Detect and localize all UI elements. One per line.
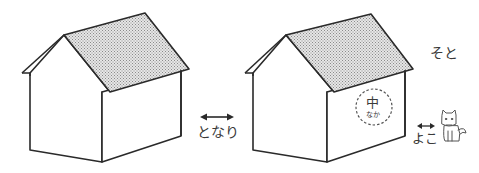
double-arrow-icon: [200, 114, 234, 121]
dog-icon: [442, 110, 466, 141]
naka-kanji-label: 中: [366, 96, 379, 109]
illustration: [0, 0, 479, 173]
naka-reading-label: なか: [366, 112, 380, 119]
soto-label: そと: [430, 46, 458, 60]
double-arrow-icon: [417, 123, 435, 129]
left-house: [22, 13, 189, 162]
tonari-label: となり: [197, 125, 239, 139]
right-house: [245, 14, 413, 162]
yoko-label: よこ: [412, 132, 438, 145]
